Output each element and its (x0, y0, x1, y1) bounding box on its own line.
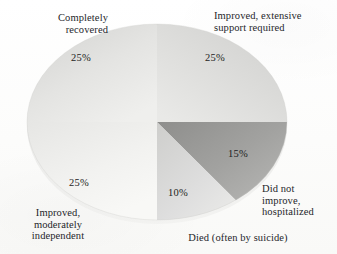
pie-chart-figure: Completely recovered Improved, extensive… (0, 0, 337, 254)
slice-label-completely-recovered: Completely recovered (6, 12, 108, 35)
slice-value-died: 10% (168, 187, 188, 198)
slice-value-completely-recovered: 25% (71, 52, 91, 63)
slice-value-improved-extensive: 25% (205, 52, 225, 63)
pie-slice-improved-extensive[interactable] (157, 24, 287, 122)
slice-label-died: Died (often by suicide) (168, 232, 308, 244)
slice-value-did-not-improve: 15% (228, 148, 248, 159)
pie-slice-completely-recovered[interactable] (27, 24, 157, 122)
slice-label-improved-extensive: Improved, extensive support required (214, 10, 336, 33)
slice-value-improved-moderately: 25% (69, 177, 89, 188)
slice-label-did-not-improve: Did not improve, hospitalized (262, 183, 337, 218)
pie-slice-improved-moderately[interactable] (27, 122, 157, 220)
slice-label-improved-moderately: Improved, moderately independent (2, 207, 114, 242)
